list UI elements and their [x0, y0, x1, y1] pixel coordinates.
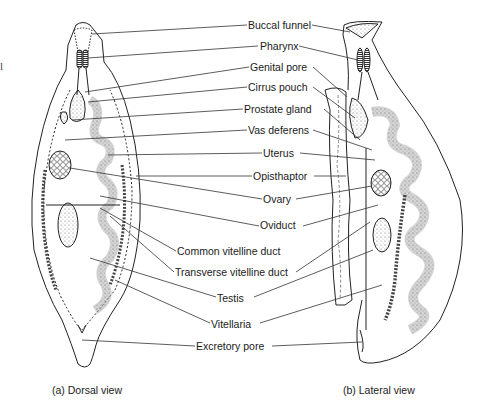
label-cirrus-pouch: Cirrus pouch	[248, 81, 308, 93]
label-excretory-pore: Excretory pore	[196, 340, 264, 352]
lateral-view-drawing	[325, 21, 463, 363]
label-genital-pore: Genital pore	[250, 61, 307, 73]
label-vitellaria: Vitellaria	[211, 318, 251, 330]
label-buccal-funnel: Buccal funnel	[248, 19, 311, 31]
label-testis: Testis	[217, 292, 244, 304]
anatomy-drawing	[0, 0, 498, 418]
label-oviduct: Oviduct	[260, 219, 296, 231]
label-transverse-vitelline-duct: Transverse vitelline duct	[175, 266, 288, 278]
label-common-vitelline-duct: Common vitelline duct	[177, 245, 280, 257]
label-uterus: Uterus	[263, 147, 294, 159]
label-vas-deferens: Vas deferens	[248, 124, 309, 136]
label-prostate-gland: Prostate gland	[244, 103, 312, 115]
label-opisthaptor: Opisthaptor	[253, 170, 307, 182]
dorsal-view-drawing	[32, 23, 141, 368]
caption-lateral-view: (b) Lateral view	[343, 384, 415, 396]
caption-dorsal-view: (a) Dorsal view	[52, 384, 122, 396]
label-pharynx: Pharynx	[260, 40, 299, 52]
figure-diagram: l	[0, 0, 498, 418]
label-ovary: Ovary	[263, 193, 291, 205]
